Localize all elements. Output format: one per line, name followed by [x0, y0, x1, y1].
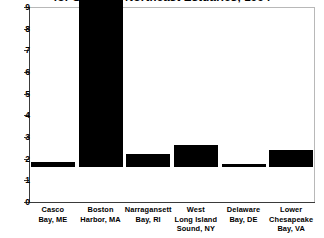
x-axis-label-line: Delaware: [220, 205, 268, 215]
bar: [126, 154, 170, 167]
x-axis-label-line: Boston: [77, 205, 125, 215]
bar-slot: [79, 0, 123, 167]
bar: [222, 164, 266, 167]
y-axis-tick-label: 8: [8, 25, 30, 33]
x-axis-label-line: West: [172, 205, 220, 215]
y-axis-tick-label: 0: [8, 198, 30, 206]
x-axis-label-line: Long Island: [172, 215, 220, 225]
bar: [79, 0, 123, 167]
x-axis-label-line: Bay, ME: [29, 215, 77, 225]
bar-slot: [174, 0, 218, 167]
bar: [269, 150, 313, 167]
x-axis-tick-label: CascoBay, ME: [29, 205, 77, 224]
y-axis-tick-label: 6: [8, 68, 30, 76]
x-axis-label-line: Lower: [267, 205, 315, 215]
bar-slot: [126, 0, 170, 167]
bar: [31, 162, 75, 167]
bar-chart: for Selected Northeast Estuaries, 1994 9…: [0, 0, 324, 238]
x-axis-tick-label: DelawareBay, DE: [220, 205, 268, 224]
x-axis-label-line: Casco: [29, 205, 77, 215]
bar-slot: [31, 0, 75, 167]
x-axis-label-line: Narragansett: [124, 205, 172, 215]
y-axis-tick-label: 5: [8, 90, 30, 98]
x-axis-tick-label: LowerChesapeakeBay, VA: [267, 205, 315, 234]
x-axis-label-line: Bay, RI: [124, 215, 172, 225]
x-axis-tick-label: WestLong IslandSound, NY: [172, 205, 220, 234]
bar-slot: [269, 0, 313, 167]
bar: [174, 145, 218, 167]
y-axis-tick-label: 3: [8, 133, 30, 141]
y-axis-tick-label: 9: [8, 3, 30, 11]
x-axis-label-line: Sound, NY: [172, 224, 220, 234]
y-axis-tick-label: 7: [8, 46, 30, 54]
bars-layer: [29, 0, 315, 203]
x-axis-labels: CascoBay, MEBostonHarbor, MANarragansett…: [29, 205, 315, 238]
y-axis-tick-label: 1: [8, 176, 30, 184]
y-axis-tick-label: 2: [8, 155, 30, 163]
x-axis-label-line: Bay, VA: [267, 224, 315, 234]
x-axis-label-line: Bay, DE: [220, 215, 268, 225]
bar-slot: [222, 0, 266, 167]
x-axis-label-line: Chesapeake: [267, 215, 315, 225]
y-axis-tick-label: 4: [8, 111, 30, 119]
x-axis-tick-label: BostonHarbor, MA: [77, 205, 125, 224]
x-axis-label-line: Harbor, MA: [77, 215, 125, 225]
x-axis-tick-label: NarragansettBay, RI: [124, 205, 172, 224]
